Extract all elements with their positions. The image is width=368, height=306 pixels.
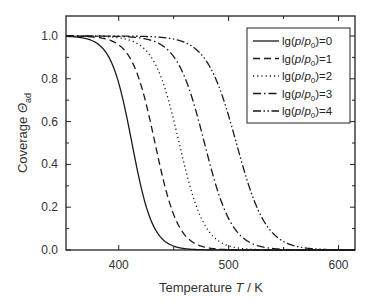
y-axis-title: Coverage Θad: [15, 93, 33, 173]
y-tick-label: 0.2: [41, 200, 58, 214]
x-tick-label: 600: [329, 258, 349, 272]
x-axis-title: Temperature T / K: [159, 280, 263, 295]
y-tick-label: 0.4: [41, 157, 58, 171]
x-tick-label: 400: [109, 258, 129, 272]
y-tick-label: 1.0: [41, 29, 58, 43]
x-tick-label: 500: [219, 258, 239, 272]
coverage-chart: 0.00.20.40.60.81.0400500600 lg(p/p0)=0lg…: [0, 0, 368, 306]
y-tick-label: 0.6: [41, 115, 58, 129]
y-tick-label: 0.0: [41, 243, 58, 257]
y-tick-label: 0.8: [41, 72, 58, 86]
legend: lg(p/p0)=0lg(p/p0)=1lg(p/p0)=2lg(p/p0)=3…: [247, 28, 350, 123]
